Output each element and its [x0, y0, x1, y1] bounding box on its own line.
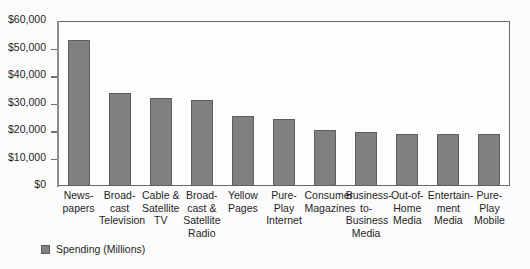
- x-axis-label: Pure-PlayMobile: [469, 189, 510, 227]
- x-axis-label: Business-to-BusinessMedia: [346, 189, 387, 239]
- bar: [68, 40, 90, 186]
- x-axis-label-line: Radio: [181, 227, 222, 240]
- x-axis-label-line: News-: [58, 189, 99, 202]
- x-axis-label-line: Play: [469, 202, 510, 215]
- y-axis-tick-label: $30,000: [8, 97, 46, 108]
- x-axis-label: Out-of-HomeMedia: [387, 189, 428, 227]
- y-axis-tick-label: $50,000: [8, 42, 46, 53]
- bar-slot: [140, 21, 181, 186]
- x-axis-label-line: papers: [58, 202, 99, 215]
- y-axis-tick-label: $0: [34, 179, 46, 190]
- x-axis-label: Entertain-mentMedia: [428, 189, 469, 227]
- y-axis-tick-label: $60,000: [8, 14, 46, 25]
- x-axis-label-line: Broad-: [99, 189, 140, 202]
- x-axis-label: Broad-cast &SatelliteRadio: [181, 189, 222, 239]
- bar: [478, 134, 500, 186]
- x-axis-label-line: Consumer: [305, 189, 346, 202]
- bar: [396, 134, 418, 186]
- bar-slot: [428, 21, 469, 186]
- bar-slot: [263, 21, 304, 186]
- x-axis-label-line: Magazines: [305, 202, 346, 215]
- x-axis-label-line: Play: [263, 202, 304, 215]
- bar-slot: [222, 21, 263, 186]
- bar: [232, 116, 254, 186]
- bar: [109, 93, 131, 186]
- bar-slot: [99, 21, 140, 186]
- bar-slot: [387, 21, 428, 186]
- bar: [150, 98, 172, 186]
- x-axis-label-line: cast &: [181, 202, 222, 215]
- x-axis-label: Pure-PlayInternet: [263, 189, 304, 227]
- bar: [437, 134, 459, 186]
- y-axis-tick-mark: [51, 76, 57, 78]
- legend-label-spending: Spending (Millions): [56, 244, 145, 255]
- x-axis-label-line: Home: [387, 202, 428, 215]
- x-axis-label-line: Pages: [222, 202, 263, 215]
- x-axis-label-line: ment: [428, 202, 469, 215]
- y-axis-tick-label: $20,000: [8, 124, 46, 135]
- x-axis-label-line: Out-of-: [387, 189, 428, 202]
- y-axis-tick-label: $10,000: [8, 152, 46, 163]
- y-axis-tick-mark: [51, 131, 57, 133]
- x-axis-label-line: Yellow: [222, 189, 263, 202]
- x-axis-label: ConsumerMagazines: [305, 189, 346, 214]
- bar-slot: [58, 21, 99, 186]
- x-axis-label-line: Television: [99, 214, 140, 227]
- x-axis-label-line: Entertain-: [428, 189, 469, 202]
- x-axis-category-labels: News-papersBroad-castTelevisionCable &Sa…: [58, 189, 510, 245]
- x-axis-label: Cable &SatelliteTV: [140, 189, 181, 227]
- x-axis-label-line: Cable &: [140, 189, 181, 202]
- x-axis-label-line: TV: [140, 214, 181, 227]
- x-axis-label-line: Media: [428, 214, 469, 227]
- y-axis-tick-mark: [51, 159, 57, 161]
- bar: [355, 132, 377, 186]
- x-axis-label: Broad-castTelevision: [99, 189, 140, 227]
- x-axis-label-line: Pure-: [263, 189, 304, 202]
- bar: [191, 100, 213, 186]
- x-axis-label-line: Satellite: [140, 202, 181, 215]
- bar-slot: [181, 21, 222, 186]
- bar: [314, 130, 336, 186]
- x-axis-label-line: Business-: [346, 189, 387, 202]
- bars-layer: [58, 21, 510, 186]
- bar-slot: [346, 21, 387, 186]
- bar-chart: $0$10,000$20,000$30,000$40,000$50,000$60…: [0, 0, 530, 269]
- x-axis-label-line: Pure-: [469, 189, 510, 202]
- x-axis-label: News-papers: [58, 189, 99, 214]
- y-axis-tick-mark: [51, 104, 57, 106]
- x-axis-label-line: cast: [99, 202, 140, 215]
- x-axis-label-line: Media: [346, 227, 387, 240]
- y-axis: $0$10,000$20,000$30,000$40,000$50,000$60…: [0, 21, 57, 186]
- y-axis-tick-mark: [51, 49, 57, 51]
- x-axis-label-line: Broad-: [181, 189, 222, 202]
- x-axis-label-line: Internet: [263, 214, 304, 227]
- legend-swatch-spending: [41, 245, 50, 254]
- y-axis-tick-label: $40,000: [8, 69, 46, 80]
- x-axis-label-line: to-: [346, 202, 387, 215]
- bar-slot: [469, 21, 510, 186]
- chart-legend: Spending (Millions): [41, 244, 145, 255]
- bar-slot: [305, 21, 346, 186]
- x-axis-label-line: Business: [346, 214, 387, 227]
- x-axis-label-line: Satellite: [181, 214, 222, 227]
- x-axis-label: YellowPages: [222, 189, 263, 214]
- x-axis-label-line: Media: [387, 214, 428, 227]
- bar: [273, 119, 295, 186]
- x-axis-label-line: Mobile: [469, 214, 510, 227]
